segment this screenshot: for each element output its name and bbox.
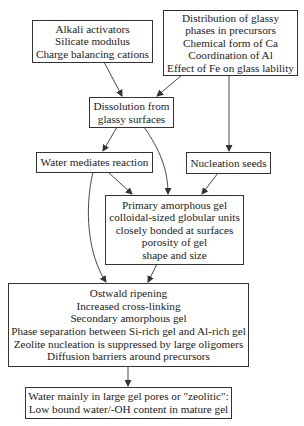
edge-distribution-dissolution (157, 75, 182, 96)
node-line: phases in precursors (164, 24, 297, 37)
node-line: Increased cross-linking (9, 300, 248, 313)
node-line: Primary amorphous gel (106, 199, 243, 212)
node-alkali-activators: Alkali activators Silicate modulus Charg… (32, 20, 153, 63)
node-water-mediates: Water mediates reaction (36, 152, 153, 173)
node-line: Charge balancing cations (33, 48, 152, 61)
node-line: Silicate modulus (33, 35, 152, 48)
node-line: colloidal-sized globular units (106, 211, 243, 224)
node-line: Secondary amorphous gel (9, 312, 248, 325)
node-line: Water mediates reaction (37, 156, 152, 169)
edge-nucleation-primary (202, 173, 218, 194)
node-line: porosity of gel (106, 236, 243, 249)
node-line: Water mainly in large gel pores or "zeol… (26, 390, 231, 403)
node-primary-amorphous-gel: Primary amorphous gel colloidal-sized gl… (105, 195, 244, 265)
node-glassy-phase-distribution: Distribution of glassy phases in precurs… (163, 10, 298, 76)
node-line: Ostwald ripening (9, 287, 248, 300)
node-line: Low bound water/-OH content in mature ge… (26, 403, 231, 416)
node-line: Diffusion barriers around precursors (9, 350, 248, 363)
node-line: Coordination of Al (164, 49, 297, 62)
node-line: Distribution of glassy (164, 12, 297, 25)
edge-alkali-dissolution (104, 62, 122, 96)
node-line: Dissolution from (90, 100, 173, 113)
node-line: glassy surfaces (90, 113, 173, 126)
node-line: Effect of Fe on glass lability (164, 62, 297, 75)
node-line: shape and size (106, 249, 243, 262)
node-line: Nucleation seeds (187, 157, 270, 170)
node-nucleation-seeds: Nucleation seeds (186, 152, 271, 174)
node-line: Zeolite nucleation is suppressed by larg… (9, 338, 248, 351)
edge-primary-ostwald (148, 264, 157, 282)
edge-water-ostwald (88, 172, 106, 282)
edge-dissolution-water (103, 127, 117, 151)
edge-water-primary (108, 172, 132, 194)
node-ostwald-ripening: Ostwald ripening Increased cross-linking… (8, 283, 249, 367)
node-line: Phase separation between Si-rich gel and… (9, 325, 248, 338)
node-line: Chemical form of Ca (164, 37, 297, 50)
node-water-final-state: Water mainly in large gel pores or "zeol… (25, 387, 232, 419)
node-dissolution: Dissolution from glassy surfaces (89, 97, 174, 128)
node-line: Alkali activators (33, 23, 152, 36)
node-line: closely bonded at surfaces (106, 224, 243, 237)
